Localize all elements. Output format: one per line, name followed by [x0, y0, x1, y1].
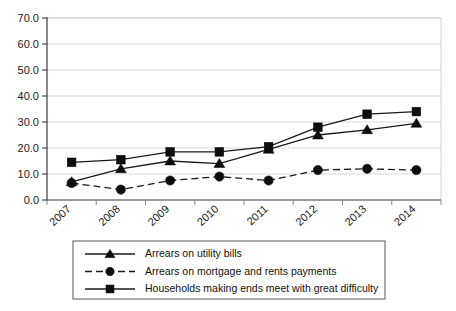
legend-label: Households making ends meet with great d…	[145, 282, 379, 294]
square-marker	[215, 148, 224, 157]
circle-marker	[412, 166, 421, 175]
legend-label: Arrears on utility bills	[145, 247, 242, 259]
chart-canvas: 0.010.020.030.040.050.060.070.0 20072008…	[0, 0, 456, 311]
y-tick-label: 50.0	[18, 64, 39, 76]
circle-marker	[313, 166, 322, 175]
y-tick-label: 60.0	[18, 38, 39, 50]
y-tick-label: 30.0	[18, 116, 39, 128]
square-marker	[106, 285, 114, 293]
square-marker	[412, 107, 421, 116]
square-marker	[67, 158, 76, 167]
y-tick-label: 20.0	[18, 142, 39, 154]
square-marker	[166, 148, 175, 157]
square-marker	[363, 110, 372, 119]
y-tick-label: 40.0	[18, 90, 39, 102]
circle-marker	[166, 176, 175, 185]
circle-marker	[363, 164, 372, 173]
circle-marker	[264, 176, 273, 185]
circle-marker	[116, 185, 125, 194]
y-tick-label: 70.0	[18, 12, 39, 24]
line-chart: 0.010.020.030.040.050.060.070.0 20072008…	[0, 0, 456, 311]
y-tick-label: 0.0	[24, 194, 39, 206]
circle-marker	[67, 179, 76, 188]
circle-marker	[106, 267, 114, 275]
y-tick-label: 10.0	[18, 168, 39, 180]
square-marker	[314, 123, 323, 132]
circle-marker	[215, 172, 224, 181]
chart-legend: Arrears on utility billsArrears on mortg…	[73, 241, 385, 299]
square-marker	[264, 142, 273, 151]
legend-label: Arrears on mortgage and rents payments	[145, 265, 336, 277]
square-marker	[117, 155, 126, 164]
